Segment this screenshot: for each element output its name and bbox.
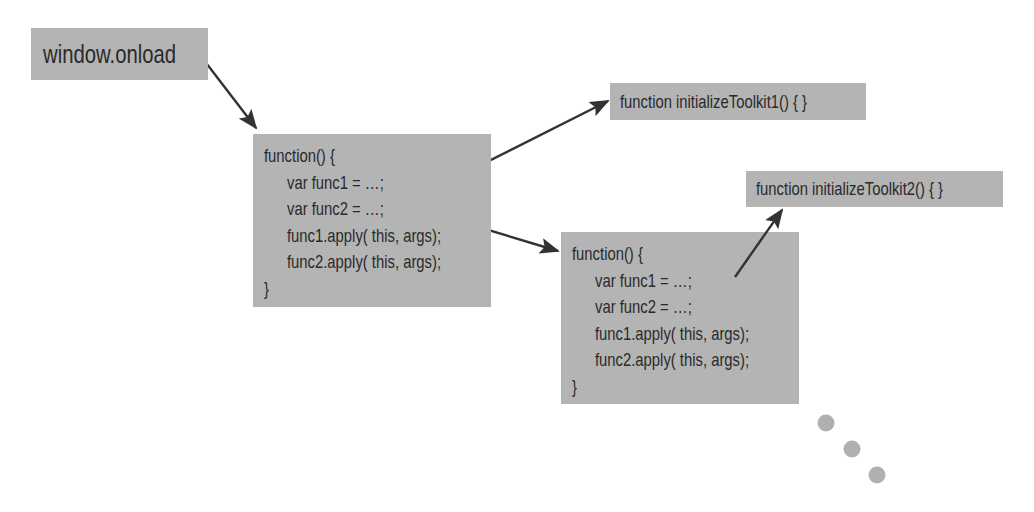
- arrow-func1-to-toolkit2: [735, 210, 782, 277]
- arrows-top-layer: [0, 0, 1034, 512]
- diagram-canvas: window.onload function initializeToolkit…: [0, 0, 1034, 512]
